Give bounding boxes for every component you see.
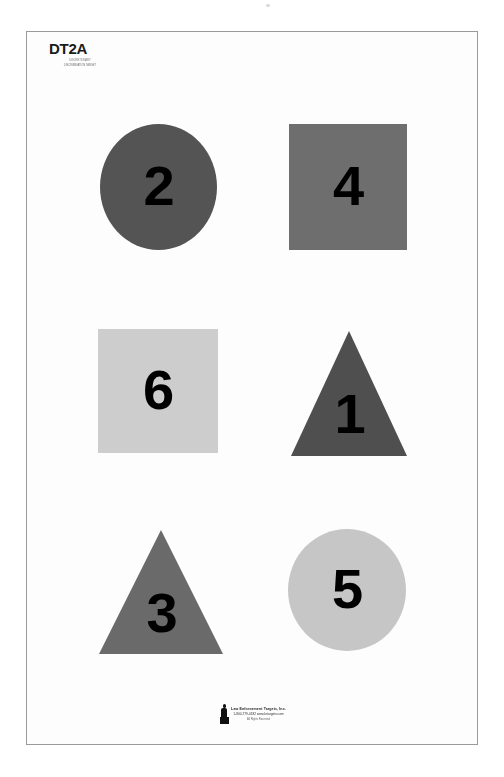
target-sheet: DT2A DISCRETIONARY DISCRIMINATION TARGET…: [26, 31, 478, 745]
person-silhouette-icon: [220, 704, 229, 724]
shape-number-1: 1: [291, 386, 408, 442]
shape-cell-1: 1: [291, 331, 408, 456]
sheet-code-label: DT2A: [49, 41, 199, 56]
footer-logo: Law Enforcement Targets, Inc. 1-800-779-…: [27, 704, 479, 724]
shape-number-5: 5: [288, 561, 406, 617]
shape-cell-3: 3: [99, 530, 224, 654]
footer-text-block: Law Enforcement Targets, Inc. 1-800-779-…: [231, 707, 286, 721]
sheet-header: DT2A DISCRETIONARY DISCRIMINATION TARGET: [49, 41, 199, 66]
shape-number-4: 4: [289, 158, 407, 214]
shape-cell-6: 6: [98, 329, 218, 453]
shape-number-3: 3: [99, 585, 224, 641]
footer-contact-info: 1-800-779-0182 www.letargets.com: [233, 712, 283, 716]
shape-number-6: 6: [98, 362, 218, 418]
scan-artifact-speck: [266, 4, 270, 7]
shape-cell-4: 4: [289, 124, 407, 250]
shape-number-2: 2: [100, 158, 217, 214]
sheet-subtitle-label: DISCRETIONARY DISCRIMINATION TARGET: [49, 58, 111, 68]
shape-cell-5: 5: [288, 529, 406, 651]
footer-rights-notice: All Rights Reserved: [247, 718, 270, 722]
shape-cell-2: 2: [100, 124, 217, 250]
